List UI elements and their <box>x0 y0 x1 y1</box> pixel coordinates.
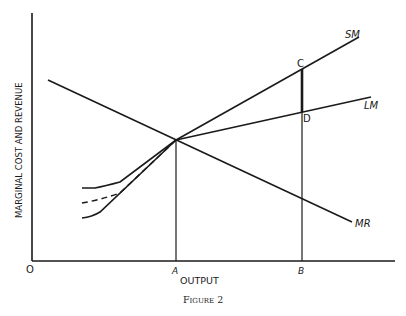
series-dashed <box>82 140 176 203</box>
label-SM: SM <box>345 29 360 40</box>
series-SM <box>176 37 359 140</box>
label-MR: MR <box>355 218 371 229</box>
figure-caption: Figure 2 <box>183 294 223 305</box>
series-lower-left <box>82 140 176 218</box>
economics-diagram: SM LM MR C D O A B OUTPUT MARGINAL COST … <box>0 0 406 316</box>
label-LM: LM <box>364 100 379 111</box>
label-C: C <box>297 58 304 69</box>
label-D: D <box>303 113 311 124</box>
series-upper-left <box>82 140 176 188</box>
y-axis-label: MARGINAL COST AND REVENUE <box>14 82 24 218</box>
origin-label: O <box>26 264 34 275</box>
tick-label-B: B <box>298 266 304 276</box>
tick-label-A: A <box>171 266 178 276</box>
series-LM <box>176 97 371 140</box>
x-axis-label: OUTPUT <box>180 275 219 286</box>
